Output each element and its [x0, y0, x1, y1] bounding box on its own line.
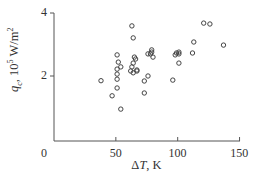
y-axis-label: qc, 105 W/m2 [6, 28, 24, 92]
y-axis-label-unit-exp: 2 [6, 28, 15, 32]
data-point [119, 107, 123, 111]
data-point [171, 78, 175, 82]
data-point [208, 22, 212, 26]
data-point [131, 36, 135, 40]
y-tick-label: 4 [41, 6, 47, 18]
data-point [115, 53, 119, 57]
data-point [192, 40, 196, 44]
scatter-plot [0, 0, 263, 182]
data-point [177, 61, 181, 65]
data-point [146, 74, 150, 78]
y-axis-label-exp: 5 [6, 59, 15, 63]
y-axis-label-var: q [7, 86, 21, 92]
data-point [142, 91, 146, 95]
data-point [110, 94, 114, 98]
data-point [99, 79, 103, 83]
y-tick-label: 2 [41, 69, 47, 81]
data-point [221, 43, 225, 47]
data-point [115, 72, 119, 76]
y-axis-label-sub: c [15, 82, 24, 86]
data-point [190, 51, 194, 55]
data-point [142, 79, 146, 83]
data-point [115, 86, 119, 90]
data-point [119, 65, 123, 69]
data-point [151, 55, 155, 59]
y-axis-label-unit: W/m [7, 32, 21, 60]
data-point [116, 60, 120, 64]
x-axis-label: ΔT, K [0, 158, 263, 173]
data-point [202, 21, 206, 25]
data-point [115, 77, 119, 81]
y-axis-label-mid: , 10 [7, 63, 21, 82]
x-axis-label-suffix: , K [146, 158, 161, 172]
ticks [50, 13, 240, 141]
data-point [130, 24, 134, 28]
data-points [99, 21, 226, 111]
axes [54, 13, 240, 141]
